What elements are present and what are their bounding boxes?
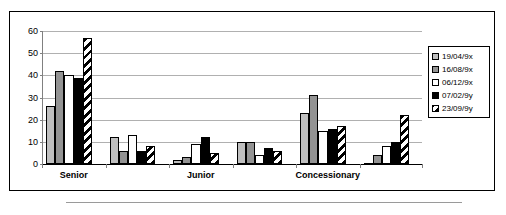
- bar[interactable]: [337, 126, 346, 164]
- legend-label: 16/08/9x: [442, 65, 473, 74]
- bar[interactable]: [128, 135, 137, 164]
- legend-swatch-icon: [432, 92, 439, 99]
- legend-item[interactable]: 06/12/9x: [432, 76, 486, 88]
- y-axis-tick-marks: [12, 31, 44, 164]
- bar[interactable]: [300, 113, 309, 164]
- legend-label: 07/02/9y: [442, 91, 473, 100]
- x-tick-mark: [233, 164, 234, 168]
- bar[interactable]: [210, 153, 219, 164]
- bar[interactable]: [119, 151, 128, 164]
- x-tick-mark: [360, 164, 361, 168]
- x-tick-mark: [422, 164, 423, 168]
- bar[interactable]: [146, 146, 155, 164]
- chart-legend: 19/04/9x16/08/9x06/12/9x07/02/9y23/09/9y: [428, 46, 490, 118]
- x-label-concessionary: Concessionary: [295, 169, 360, 181]
- bar[interactable]: [237, 142, 246, 164]
- bar-group: [233, 31, 297, 164]
- bar-group: [42, 31, 106, 164]
- bar-group: [360, 31, 424, 164]
- bar[interactable]: [182, 157, 191, 164]
- legend-item[interactable]: 23/09/9y: [432, 102, 486, 114]
- legend-item[interactable]: 19/04/9x: [432, 50, 486, 62]
- x-axis-tick-marks: [42, 164, 423, 168]
- legend-item[interactable]: 07/02/9y: [432, 89, 486, 101]
- bar[interactable]: [74, 78, 83, 164]
- x-label-senior: Senior: [60, 169, 88, 181]
- bar[interactable]: [137, 151, 146, 164]
- footer-divider: [66, 202, 462, 203]
- bars-layer: [42, 31, 423, 164]
- bar[interactable]: [273, 151, 282, 164]
- bar[interactable]: [46, 106, 55, 164]
- bar[interactable]: [400, 115, 409, 164]
- x-axis-category-labels: SeniorJuniorConcessionary: [42, 169, 423, 183]
- x-tick-mark: [169, 164, 170, 168]
- bar[interactable]: [83, 38, 92, 164]
- x-label-junior: Junior: [187, 169, 215, 181]
- bar[interactable]: [201, 137, 210, 164]
- bar-group: [106, 31, 170, 164]
- bar[interactable]: [64, 75, 73, 164]
- bar-group: [169, 31, 233, 164]
- bar[interactable]: [55, 71, 64, 164]
- legend-swatch-icon: [432, 79, 439, 86]
- legend-swatch-icon: [432, 66, 439, 73]
- bar[interactable]: [318, 131, 327, 164]
- x-tick-mark: [296, 164, 297, 168]
- legend-label: 06/12/9x: [442, 78, 473, 87]
- chart-frame: 0102030405060 SeniorJuniorConcessionary …: [9, 11, 495, 191]
- bar[interactable]: [373, 155, 382, 164]
- bar[interactable]: [110, 137, 119, 164]
- bar[interactable]: [382, 146, 391, 164]
- bar-group: [296, 31, 360, 164]
- bar[interactable]: [391, 142, 400, 164]
- legend-item[interactable]: 16/08/9x: [432, 63, 486, 75]
- legend-label: 23/09/9y: [442, 104, 473, 113]
- x-tick-mark: [42, 164, 43, 168]
- legend-label: 19/04/9x: [442, 52, 473, 61]
- legend-swatch-icon: [432, 105, 439, 112]
- bar[interactable]: [264, 148, 273, 164]
- bar[interactable]: [328, 129, 337, 164]
- bar[interactable]: [255, 155, 264, 164]
- x-tick-mark: [106, 164, 107, 168]
- bar[interactable]: [246, 142, 255, 164]
- bar[interactable]: [191, 144, 200, 164]
- legend-swatch-icon: [432, 53, 439, 60]
- bar[interactable]: [309, 95, 318, 164]
